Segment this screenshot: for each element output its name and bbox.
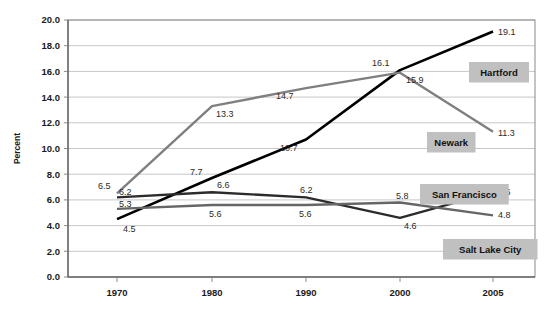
chart-canvas: 0.02.04.06.08.010.012.014.016.018.020.0 …: [0, 0, 559, 311]
point-label-hartford-1970: 4.5: [123, 224, 136, 234]
series-label-newark: Newark: [427, 132, 476, 153]
y-tick-label-6: 6.0: [47, 194, 60, 205]
series-label-san-francisco: San Francisco: [420, 184, 509, 205]
point-label-sanfrancisco-2000: 4.6: [404, 221, 417, 231]
x-tick-label-2000: 2000: [389, 287, 410, 298]
y-axis-title: Percent: [12, 133, 22, 164]
point-label-newark-2005: 11.3: [498, 128, 515, 138]
series-label-text-newark: Newark: [434, 137, 469, 148]
line-chart: 0.02.04.06.08.010.012.014.016.018.020.0 …: [0, 0, 559, 311]
y-tick-label-18: 18.0: [42, 40, 61, 51]
series-label-text-salt-lake-city: Salt Lake City: [459, 244, 522, 255]
y-tick-label-14: 14.0: [42, 92, 61, 103]
y-tick-label-10: 10.0: [42, 143, 61, 154]
point-label-hartford-2000: 16.1: [372, 58, 390, 68]
y-axis-title-text: Percent: [12, 133, 22, 164]
point-label-newark-2000: 15.9: [406, 75, 424, 85]
point-label-saltlakecity-1980: 5.6: [209, 209, 222, 219]
point-label-hartford-1980: 7.7: [190, 167, 203, 177]
y-tick-label-12: 12.0: [42, 117, 61, 128]
point-label-saltlakecity-1990: 5.6: [299, 209, 312, 219]
point-label-newark-1970: 6.5: [98, 181, 111, 191]
x-tick-label-2005: 2005: [482, 287, 504, 298]
x-tick-label-1990: 1990: [295, 287, 316, 298]
x-tick-label-1980: 1980: [201, 287, 222, 298]
y-tick-label-2: 2.0: [47, 246, 60, 257]
chart-background: [0, 0, 559, 311]
point-label-sanfrancisco-1970: 6.2: [119, 187, 132, 197]
y-tick-label-8: 8.0: [47, 169, 60, 180]
series-label-salt-lake-city: Salt Lake City: [443, 239, 538, 260]
y-tick-label-16: 16.0: [42, 66, 61, 77]
series-label-text-hartford: Hartford: [480, 67, 518, 78]
point-label-newark-1980: 13.3: [216, 109, 234, 119]
point-label-hartford-2005: 19.1: [498, 27, 516, 37]
point-label-saltlakecity-2000: 5.8: [396, 191, 409, 201]
point-label-newark-1990: 14.7: [276, 91, 294, 101]
point-label-saltlakecity-2005: 4.8: [498, 210, 511, 220]
x-tick-label-1970: 1970: [106, 287, 127, 298]
point-label-sanfrancisco-1990: 6.2: [300, 185, 313, 195]
point-label-sanfrancisco-1980: 6.6: [217, 180, 230, 190]
series-label-text-san-francisco: San Francisco: [432, 189, 497, 200]
y-tick-label-20: 20.0: [42, 14, 61, 25]
y-tick-label-0: 0.0: [47, 271, 60, 282]
series-label-hartford: Hartford: [469, 62, 529, 83]
point-label-hartford-1990: 10.7: [280, 143, 298, 153]
y-tick-label-4: 4.0: [47, 220, 60, 231]
point-label-saltlakecity-1970: 5.3: [119, 199, 132, 209]
